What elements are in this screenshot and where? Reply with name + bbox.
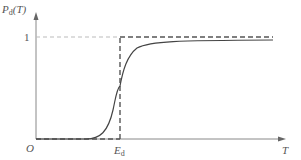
x-tick-label-ed: Ed [114,145,125,158]
y-axis-arrow-icon [34,12,39,20]
x-axis-label: T [282,145,288,156]
diagram-canvas [0,0,301,160]
y-tick-label-1: 1 [24,32,30,43]
axes [34,12,287,142]
x-axis-arrow-icon [278,137,286,142]
origin-label: O [26,143,34,154]
ideal-step-curve [36,37,273,139]
sigmoid-curve [36,40,273,139]
y-axis-label: Pd(T) [2,4,26,17]
